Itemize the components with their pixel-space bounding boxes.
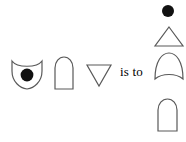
arch-left-shape (52, 56, 76, 91)
shield-with-dot-shape (10, 57, 44, 91)
filled-circle-icon (21, 69, 34, 82)
arch-concave-bottom-shape (152, 51, 186, 81)
filled-circle-icon (162, 5, 174, 17)
arch-outline (158, 99, 177, 131)
triangle-down-outline (87, 65, 111, 86)
relation-label: is to (120, 64, 143, 79)
triangle-up-shape (153, 25, 185, 49)
arch-concave-outline (155, 53, 183, 79)
triangle-down-shape (85, 62, 113, 88)
filled-circle-shape (157, 1, 179, 23)
triangle-up-outline (155, 27, 183, 46)
arch-right-shape (155, 98, 181, 133)
analogy-puzzle-canvas: is to (0, 0, 186, 142)
arch-outline (55, 57, 73, 89)
